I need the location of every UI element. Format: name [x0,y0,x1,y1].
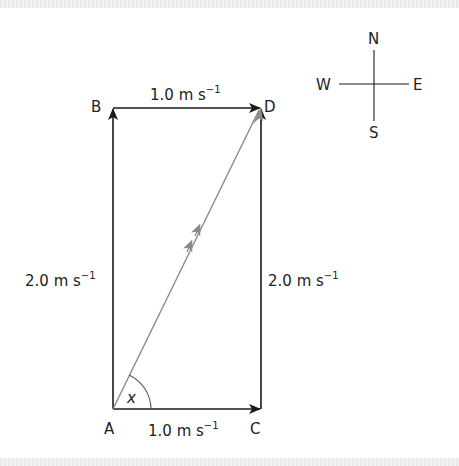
compass-south: S [369,124,379,142]
compass-rose: N S W E [316,30,422,142]
label-cd-speed: 2.0 m s−1 [268,270,339,290]
angle-label: x [126,389,136,407]
label-ac-speed: 1.0 m s−1 [148,420,219,440]
compass-west: W [316,76,331,94]
point-label-d: D [264,98,276,116]
point-label-b: B [91,98,101,116]
point-label-a: A [104,420,115,438]
resultant-vector-ad [113,110,259,409]
label-bd-speed: 1.0 m s−1 [150,84,221,104]
compass-east: E [413,76,422,94]
compass-north: N [368,30,379,48]
point-label-c: C [250,420,260,438]
vector-diagram: x B D A C 1.0 m s−1 1.0 m s−1 2.0 m s−1 … [0,0,459,466]
label-ab-speed: 2.0 m s−1 [25,270,96,290]
